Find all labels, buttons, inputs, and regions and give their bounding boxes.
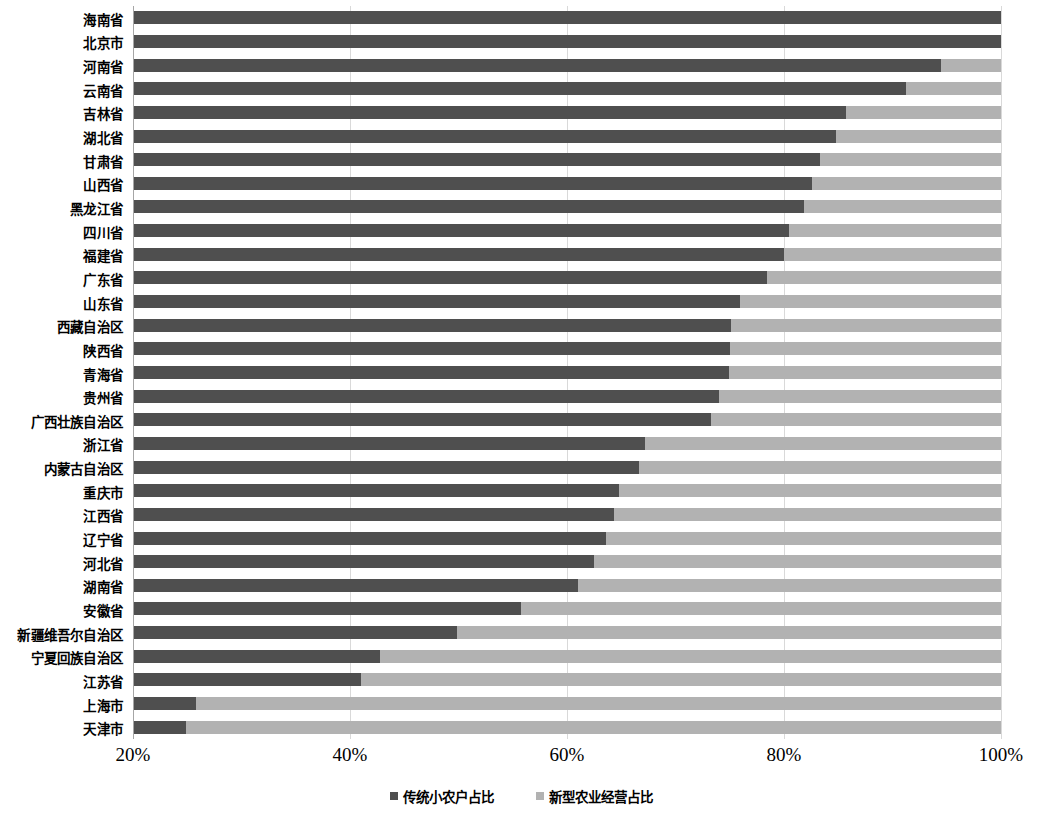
stacked-bar[interactable] <box>133 271 1001 284</box>
stacked-bar[interactable] <box>133 579 1001 592</box>
stacked-bar[interactable] <box>133 35 1001 48</box>
bar-segment-traditional[interactable] <box>133 342 730 355</box>
bar-segment-traditional[interactable] <box>133 390 719 403</box>
bar-segment-traditional[interactable] <box>133 697 196 710</box>
bar-row <box>133 177 1001 190</box>
stacked-bar[interactable] <box>133 673 1001 686</box>
bar-segment-new-type[interactable] <box>730 342 1001 355</box>
bar-segment-new-type[interactable] <box>186 721 1001 734</box>
stacked-bar[interactable] <box>133 366 1001 379</box>
stacked-bar[interactable] <box>133 11 1001 24</box>
bar-segment-traditional[interactable] <box>133 579 578 592</box>
bar-segment-new-type[interactable] <box>731 319 1001 332</box>
bar-segment-traditional[interactable] <box>133 200 804 213</box>
bar-segment-new-type[interactable] <box>820 153 1001 166</box>
stacked-bar[interactable] <box>133 413 1001 426</box>
bar-segment-new-type[interactable] <box>521 602 1001 615</box>
category-label: 江西省 <box>83 505 123 525</box>
bar-segment-traditional[interactable] <box>133 532 606 545</box>
bar-segment-new-type[interactable] <box>614 508 1001 521</box>
bar-segment-new-type[interactable] <box>846 106 1001 119</box>
bar-segment-traditional[interactable] <box>133 11 1001 24</box>
bar-segment-traditional[interactable] <box>133 319 731 332</box>
stacked-bar[interactable] <box>133 532 1001 545</box>
bar-segment-new-type[interactable] <box>719 390 1001 403</box>
stacked-bar[interactable] <box>133 295 1001 308</box>
category-label: 黑龙江省 <box>70 198 123 218</box>
bar-segment-traditional[interactable] <box>133 177 812 190</box>
bar-segment-new-type[interactable] <box>836 130 1001 143</box>
stacked-bar[interactable] <box>133 437 1001 450</box>
bar-segment-new-type[interactable] <box>784 248 1001 261</box>
legend-item[interactable]: 传统小农户占比 <box>390 786 494 806</box>
stacked-bar[interactable] <box>133 59 1001 72</box>
bar-segment-new-type[interactable] <box>767 271 1001 284</box>
stacked-bar[interactable] <box>133 248 1001 261</box>
bar-segment-new-type[interactable] <box>740 295 1001 308</box>
stacked-bar[interactable] <box>133 342 1001 355</box>
bar-segment-traditional[interactable] <box>133 484 619 497</box>
bar-row <box>133 555 1001 568</box>
stacked-bar[interactable] <box>133 484 1001 497</box>
bar-segment-traditional[interactable] <box>133 271 767 284</box>
stacked-bar[interactable] <box>133 461 1001 474</box>
bar-segment-traditional[interactable] <box>133 602 521 615</box>
bar-segment-new-type[interactable] <box>457 626 1001 639</box>
bar-segment-traditional[interactable] <box>133 366 729 379</box>
bar-segment-new-type[interactable] <box>789 224 1001 237</box>
bar-segment-traditional[interactable] <box>133 82 906 95</box>
stacked-bar[interactable] <box>133 177 1001 190</box>
stacked-bar[interactable] <box>133 697 1001 710</box>
bar-segment-new-type[interactable] <box>729 366 1001 379</box>
bar-segment-traditional[interactable] <box>133 413 711 426</box>
stacked-bar[interactable] <box>133 82 1001 95</box>
bar-segment-new-type[interactable] <box>594 555 1001 568</box>
stacked-bar[interactable] <box>133 390 1001 403</box>
bar-segment-new-type[interactable] <box>639 461 1001 474</box>
bar-segment-traditional[interactable] <box>133 224 789 237</box>
bar-segment-traditional[interactable] <box>133 295 740 308</box>
bar-segment-traditional[interactable] <box>133 626 457 639</box>
bar-segment-new-type[interactable] <box>804 200 1001 213</box>
stacked-bar[interactable] <box>133 626 1001 639</box>
bar-segment-traditional[interactable] <box>133 437 645 450</box>
stacked-bar[interactable] <box>133 602 1001 615</box>
bar-segment-new-type[interactable] <box>578 579 1001 592</box>
bar-segment-traditional[interactable] <box>133 106 846 119</box>
stacked-bar[interactable] <box>133 200 1001 213</box>
bar-segment-new-type[interactable] <box>619 484 1001 497</box>
bar-segment-new-type[interactable] <box>196 697 1001 710</box>
stacked-bar[interactable] <box>133 224 1001 237</box>
stacked-bar[interactable] <box>133 650 1001 663</box>
stacked-bar[interactable] <box>133 721 1001 734</box>
category-axis-line <box>133 6 134 739</box>
bar-segment-new-type[interactable] <box>361 673 1001 686</box>
bar-segment-traditional[interactable] <box>133 673 361 686</box>
stacked-bar[interactable] <box>133 555 1001 568</box>
bar-segment-new-type[interactable] <box>941 59 1001 72</box>
bar-segment-new-type[interactable] <box>711 413 1001 426</box>
stacked-bar[interactable] <box>133 130 1001 143</box>
stacked-bar[interactable] <box>133 319 1001 332</box>
stacked-bar[interactable] <box>133 106 1001 119</box>
stacked-bar[interactable] <box>133 153 1001 166</box>
bar-segment-traditional[interactable] <box>133 59 941 72</box>
bar-segment-traditional[interactable] <box>133 721 186 734</box>
stacked-bar[interactable] <box>133 508 1001 521</box>
bar-segment-traditional[interactable] <box>133 248 784 261</box>
bar-segment-traditional[interactable] <box>133 555 594 568</box>
bar-segment-traditional[interactable] <box>133 153 820 166</box>
bar-segment-new-type[interactable] <box>645 437 1001 450</box>
legend-item[interactable]: 新型农业经营占比 <box>536 786 653 806</box>
bar-segment-new-type[interactable] <box>906 82 1001 95</box>
gridline-100pct <box>1001 6 1002 739</box>
bar-segment-traditional[interactable] <box>133 35 1001 48</box>
bar-segment-new-type[interactable] <box>606 532 1001 545</box>
bar-segment-traditional[interactable] <box>133 508 614 521</box>
bar-segment-traditional[interactable] <box>133 461 639 474</box>
bar-row <box>133 295 1001 308</box>
bar-segment-new-type[interactable] <box>812 177 1001 190</box>
bar-segment-new-type[interactable] <box>380 650 1001 663</box>
bar-segment-traditional[interactable] <box>133 650 380 663</box>
bar-segment-traditional[interactable] <box>133 130 836 143</box>
